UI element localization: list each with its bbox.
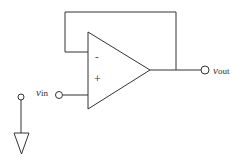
vout-label: vout xyxy=(213,64,230,76)
inverting-input-label: - xyxy=(95,50,99,62)
output-terminal xyxy=(201,66,209,74)
circuit-diagram: - + vin vout xyxy=(0,0,243,163)
ground-terminal xyxy=(18,94,24,100)
input-terminal xyxy=(56,92,63,99)
vin-label: vin xyxy=(36,86,48,98)
ground-symbol xyxy=(14,133,29,154)
opamp-triangle xyxy=(88,32,150,109)
noninverting-input-label: + xyxy=(94,72,101,86)
